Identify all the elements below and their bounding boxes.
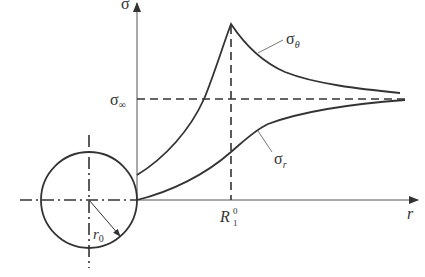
sigma-r-leader — [258, 131, 272, 152]
x-axis-label: r — [407, 205, 414, 222]
r1-superscript: 0 — [233, 206, 238, 216]
sigma-theta-leader — [258, 40, 283, 53]
y-axis-label: σ — [121, 0, 130, 12]
sigma-theta-label: σθ — [286, 30, 300, 50]
sigma-inf-label: σ∞ — [110, 91, 126, 110]
r1-label: R — [219, 208, 230, 225]
sigma-r-label: σr — [274, 150, 287, 170]
stress-distribution-diagram: σ σ∞ σθ σr R 0 1 r r0 — [0, 0, 425, 277]
r1-subscript: 1 — [233, 218, 238, 228]
r0-label: r0 — [93, 226, 104, 244]
